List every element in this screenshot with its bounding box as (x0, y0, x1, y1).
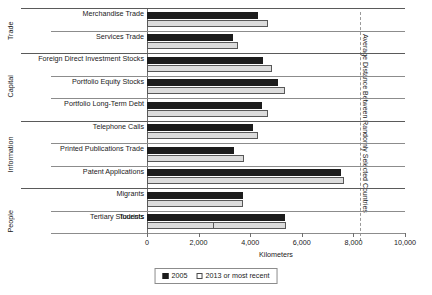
bar-2005 (147, 57, 263, 64)
bar-2005 (147, 102, 262, 109)
x-tick-label: 8,000 (344, 238, 362, 247)
bar-row: Portfolio Equity Stocks (147, 76, 405, 99)
bar-2005 (147, 124, 253, 131)
bar-row: Portfolio Long-Term Debt (147, 98, 405, 121)
bar-chart: Trade Capital Information People Average… (0, 0, 432, 295)
x-tick-label: 2,000 (190, 238, 208, 247)
x-tick (147, 233, 148, 237)
x-tick (405, 233, 406, 237)
row-separator (21, 8, 405, 9)
bar-2013 (147, 87, 285, 94)
category-label: Foreign Direct Investment Stocks (38, 54, 144, 64)
category-label: Merchandise Trade (82, 9, 144, 19)
bar-row: Printed Publications Trade (147, 143, 405, 166)
category-label: Portfolio Equity Stocks (72, 77, 144, 87)
x-tick (250, 233, 251, 237)
bar-2013 (147, 110, 268, 117)
bar-row: Merchandise Trade (147, 8, 405, 31)
group-label-information: Information (6, 121, 17, 189)
bar-2013 (147, 42, 238, 49)
bar-row: Patent Applications (147, 166, 405, 189)
bar-2005 (147, 12, 258, 19)
bar-2013 (147, 132, 258, 139)
plot-area: Average Distance Between Randomly Select… (147, 8, 405, 233)
x-tick (302, 233, 303, 237)
x-tick-label: 6,000 (293, 238, 311, 247)
category-label: Services Trade (96, 32, 144, 42)
x-tick-label: 10,000 (394, 238, 416, 247)
bar-2013 (147, 65, 272, 72)
category-label: Telephone Calls (93, 122, 144, 132)
x-tick (199, 233, 200, 237)
bar-2013 (147, 200, 243, 207)
bar-2005 (147, 169, 341, 176)
chart-legend: 2005 2013 or most recent (155, 268, 278, 284)
bar-2005 (147, 147, 234, 154)
row-separator (21, 188, 405, 189)
group-label-people: People (6, 188, 17, 256)
bar-2005 (147, 192, 243, 199)
group-label-trade: Trade (6, 8, 17, 53)
bar-row: Services Trade (147, 31, 405, 54)
x-axis-title: Kilometers (147, 250, 405, 259)
row-separator (21, 121, 405, 122)
group-label-capital: Capital (6, 53, 17, 121)
category-label: Printed Publications Trade (60, 144, 144, 154)
legend-item-2013: 2013 or most recent (197, 271, 270, 280)
category-label: Portfolio Long-Term Debt (64, 99, 144, 109)
bar-2013 (147, 222, 214, 229)
legend-label: 2005 (172, 271, 188, 280)
bar-2005 (147, 214, 209, 221)
bar-2005 (147, 79, 278, 86)
bar-2013 (147, 177, 344, 184)
category-label: Migrants (116, 189, 144, 199)
legend-swatch-icon (163, 273, 169, 279)
bar-row: Migrants (147, 188, 405, 211)
bar-row: Telephone Calls (147, 121, 405, 144)
category-label: Patent Applications (83, 167, 144, 177)
x-tick (353, 233, 354, 237)
row-separator (51, 233, 405, 234)
bar-2005 (147, 34, 233, 41)
legend-swatch-icon (197, 273, 203, 279)
x-tick-label: 4,000 (241, 238, 259, 247)
bar-2013 (147, 20, 268, 27)
legend-label: 2013 or most recent (206, 271, 270, 280)
x-tick-label: 0 (145, 238, 149, 247)
category-label: Tourists (119, 212, 144, 222)
bar-2013 (147, 155, 244, 162)
bar-row: Foreign Direct Investment Stocks (147, 53, 405, 76)
legend-item-2005: 2005 (163, 271, 188, 280)
